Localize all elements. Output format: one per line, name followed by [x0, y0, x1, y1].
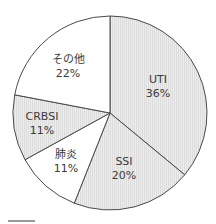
slice-value-label: 11%: [30, 124, 54, 137]
slice-value-label: 20%: [112, 169, 136, 182]
slice-label: SSI: [115, 155, 132, 168]
slice-label: 肺炎: [55, 148, 77, 161]
slice-label: CRBSI: [26, 110, 59, 123]
slice-value-label: 36%: [146, 87, 170, 100]
footer-bar: [8, 220, 35, 222]
slice-value-label: 22%: [56, 67, 80, 80]
slice-value-label: 11%: [54, 162, 78, 175]
slice-label: その他: [52, 53, 85, 66]
slice-label: UTI: [149, 73, 167, 86]
pie-chart: UTI36%SSI20%肺炎11%CRBSI11%その他22%: [0, 0, 216, 224]
